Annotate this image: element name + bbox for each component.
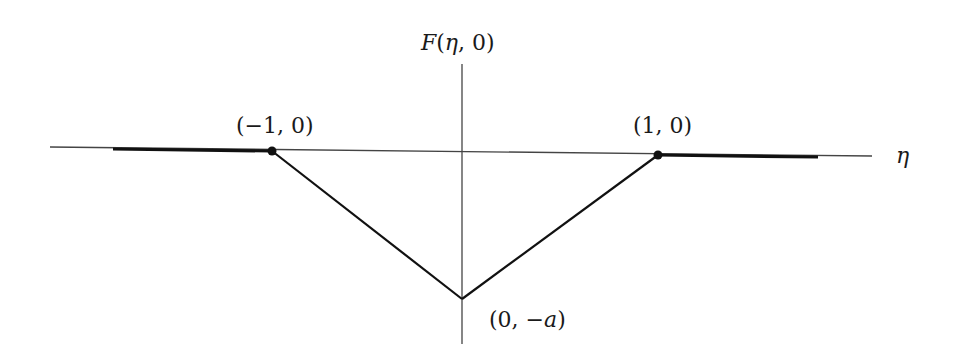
right-zero-segment: [658, 155, 818, 157]
left-zero-segment: [113, 149, 272, 151]
vertex-label: (0, −a): [489, 307, 566, 332]
right-point-label: (1, 0): [633, 113, 692, 138]
right-slope-segment: [462, 155, 658, 299]
x-axis-label: η: [896, 143, 909, 168]
left-slope-segment: [272, 151, 462, 299]
left-point-label: (−1, 0): [236, 113, 314, 138]
function-diagram: F(η, 0) (−1, 0) (1, 0) (0, −a) η: [0, 0, 957, 361]
point-right: [654, 151, 663, 160]
point-left: [268, 147, 277, 156]
y-axis-label: F(η, 0): [420, 30, 495, 55]
